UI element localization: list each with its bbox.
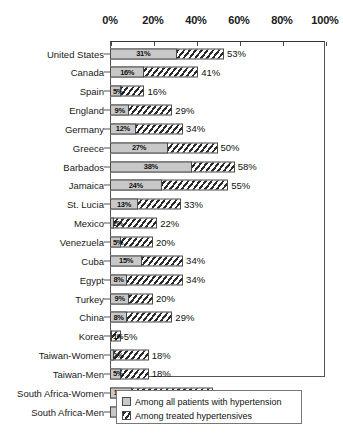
bar-chart: 0%20%40%60%80%100% United States31%53%Ca… (0, 0, 343, 437)
bar-group: 38%58% (110, 161, 235, 172)
bar-value-treated: 18% (152, 350, 171, 361)
bar-value-all-patients: 12% (116, 124, 130, 133)
bar-value-treated: 18% (152, 368, 171, 379)
bar-value-all-patients: 2% (113, 351, 123, 360)
category-label: South Africa-Women (0, 387, 104, 398)
bar-row: Jamaica24%55% (0, 176, 343, 195)
bar-value-treated: 5% (124, 331, 138, 342)
bar-value-all-patients: 5% (113, 238, 123, 247)
bar-group: 2%22% (110, 218, 157, 229)
bar-group: 15%34% (110, 255, 183, 266)
category-label: Taiwan-Men (0, 368, 104, 379)
category-label: South Africa-Men (0, 406, 104, 417)
bar-value-treated: 41% (201, 67, 220, 78)
bar-value-all-patients: 13% (117, 200, 131, 209)
bar-value-treated: 34% (186, 123, 205, 134)
bar-rows: United States31%53%Canada16%41%Spain5%16… (0, 41, 343, 377)
bar-group: 5%20% (110, 237, 153, 248)
category-label: Korea (0, 331, 104, 342)
bar-row: Korea1%5% (0, 327, 343, 346)
bar-value-treated: 55% (231, 180, 250, 191)
category-label: Greece (0, 142, 104, 153)
bar-value-treated: 20% (156, 237, 175, 248)
bar-value-all-patients: 5% (113, 87, 123, 96)
category-label: Canada (0, 67, 104, 78)
bar-value-treated: 22% (160, 218, 179, 229)
bar-row: United States31%53% (0, 44, 343, 63)
x-tick-label: 80% (271, 14, 292, 26)
bar-value-all-patients: 16% (120, 68, 134, 77)
bar-group: 16%41% (110, 67, 198, 78)
bar-value-treated: 16% (147, 86, 166, 97)
bar-value-all-patients: 2% (113, 219, 123, 228)
bar-value-treated: 34% (186, 255, 205, 266)
bar-row: Canada16%41% (0, 63, 343, 82)
x-tick-label: 0% (102, 14, 118, 26)
category-label: Barbados (0, 161, 104, 172)
x-tick-label: 60% (228, 14, 249, 26)
bar-row: Turkey9%20% (0, 289, 343, 308)
bar-group: 5%18% (110, 368, 149, 379)
bar-row: Egypt8%34% (0, 270, 343, 289)
bar-row: China8%29% (0, 308, 343, 327)
bar-group: 9%20% (110, 293, 153, 304)
bar-row: St. Lucia13%33% (0, 195, 343, 214)
bar-row: Taiwan-Men5%18% (0, 364, 343, 383)
bar-group: 8%29% (110, 312, 172, 323)
bar-group: 13%33% (110, 199, 181, 210)
bar-value-treated: 29% (175, 105, 194, 116)
bar-value-treated: 29% (175, 312, 194, 323)
bar-row: Barbados38%58% (0, 157, 343, 176)
category-label: Turkey (0, 293, 104, 304)
bar-value-treated: 20% (156, 293, 175, 304)
x-axis-labels: 0%20%40%60%80%100% (0, 14, 343, 30)
bar-group: 8%34% (110, 274, 183, 285)
category-label: Spain (0, 86, 104, 97)
bar-value-all-patients: 8% (113, 275, 123, 284)
bar-group: 5%16% (110, 86, 144, 97)
category-label: China (0, 312, 104, 323)
category-label: England (0, 105, 104, 116)
bar-value-treated: 50% (221, 142, 240, 153)
bar-row: Spain5%16% (0, 82, 343, 101)
bar-row: Venezuela5%20% (0, 233, 343, 252)
bar-value-all-patients: 38% (144, 162, 158, 171)
bar-group: 1%5% (110, 331, 121, 342)
x-tick-label: 20% (142, 14, 163, 26)
bar-value-all-patients: 31% (136, 49, 150, 58)
x-tick-label: 100% (311, 14, 338, 26)
category-label: United States (0, 48, 104, 59)
bar-value-all-patients: 8% (113, 313, 123, 322)
bar-value-treated: 34% (186, 274, 205, 285)
bar-row: Cuba15%34% (0, 251, 343, 270)
bar-segment-all-patients (110, 331, 112, 342)
category-label: Mexico (0, 218, 104, 229)
category-label: Jamaica (0, 180, 104, 191)
hatched-swatch-icon (122, 411, 131, 420)
bar-row: Mexico2%22% (0, 214, 343, 233)
bar-value-all-patients: 24% (129, 181, 143, 190)
category-label: Venezuela (0, 237, 104, 248)
legend-label-all-patients: Among all patients with hypertension (135, 397, 282, 407)
bar-group: 2%18% (110, 350, 149, 361)
bar-value-all-patients: 5% (113, 369, 123, 378)
category-label: Egypt (0, 274, 104, 285)
legend-label-treated: Among treated hypertensives (135, 411, 252, 421)
bar-group: 12%34% (110, 123, 183, 134)
category-label: Cuba (0, 255, 104, 266)
bar-group: 31%53% (110, 48, 224, 59)
bar-value-all-patients: 9% (115, 294, 125, 303)
solid-gray-swatch-icon (122, 397, 131, 406)
bar-value-all-patients: 9% (115, 106, 125, 115)
bar-value-treated: 58% (238, 161, 257, 172)
bar-row: Greece27%50% (0, 138, 343, 157)
category-label: Germany (0, 123, 104, 134)
category-label: St. Lucia (0, 199, 104, 210)
bar-group: 9%29% (110, 105, 172, 116)
category-label: Taiwan-Women (0, 350, 104, 361)
x-tick-label: 40% (185, 14, 206, 26)
chart-legend: Among all patients with hypertension Amo… (116, 390, 302, 424)
bar-value-all-patients: 15% (119, 256, 133, 265)
bar-value-treated: 53% (227, 48, 246, 59)
bar-group: 27%50% (110, 142, 218, 153)
